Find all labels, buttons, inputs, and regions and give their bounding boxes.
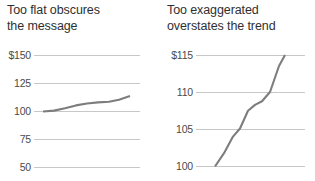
data-line-flat xyxy=(43,96,130,111)
ytick-label-exag-105: 105 xyxy=(157,124,193,135)
ytick-label-flat-125: 125 xyxy=(0,78,31,89)
ytick-label-exag-110: 110 xyxy=(157,87,193,98)
dual-line-chart-figure: Too flat obscures the message $150 125 1… xyxy=(0,0,315,181)
plot-area-flat xyxy=(0,0,158,181)
ytick-label-exag-100: 100 xyxy=(157,161,193,172)
ytick-label-flat-100: 100 xyxy=(0,106,31,117)
data-line-exaggerated xyxy=(215,55,285,167)
ytick-label-flat-150: $150 xyxy=(0,50,31,61)
chart-panel-exaggerated: Too exaggerated overstates the trend $11… xyxy=(157,0,315,181)
ytick-label-flat-50: 50 xyxy=(0,162,31,173)
ytick-label-flat-75: 75 xyxy=(0,134,31,145)
ytick-label-exag-115: $115 xyxy=(157,50,193,61)
chart-panel-flat: Too flat obscures the message $150 125 1… xyxy=(0,0,158,181)
